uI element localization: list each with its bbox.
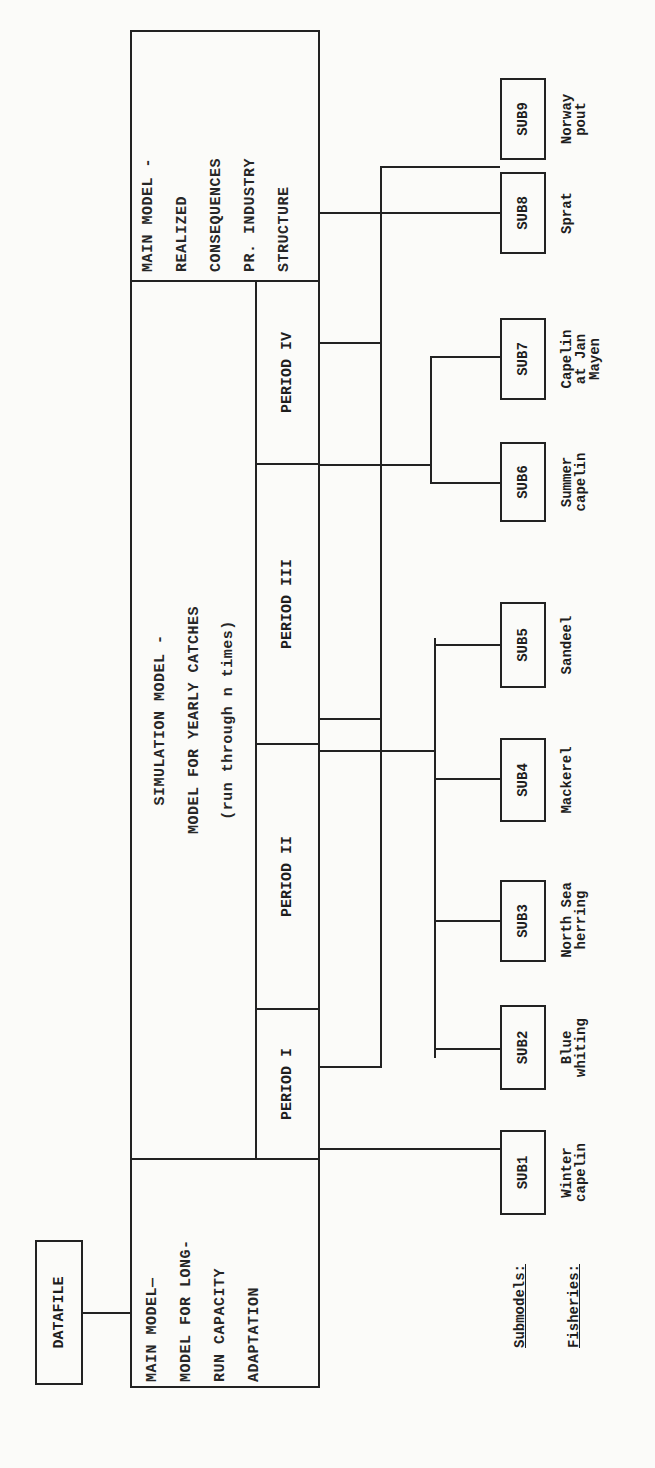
main-model-realized-line-4: PR. INDUSTRY — [238, 158, 263, 272]
fishery-sub6: Summer capelin — [560, 442, 588, 522]
submodel-sub6-label: SUB6 — [502, 444, 544, 520]
connector-sub4-drop — [434, 778, 500, 780]
period-3-label: PERIOD III — [257, 465, 318, 743]
period-4-box: PERIOD IV — [255, 280, 320, 465]
connector-group-b-bar — [430, 356, 432, 484]
submodel-sub2-label: SUB2 — [502, 1007, 544, 1088]
connector-sub3-drop — [434, 920, 500, 922]
main-model-realized-line-1: MAIN MODEL - — [136, 158, 161, 272]
connector-period1-stub — [320, 1066, 382, 1068]
submodels-legend: Submodels: — [512, 1264, 528, 1348]
period-1-label: PERIOD I — [257, 1010, 318, 1158]
submodel-sub9-label: SUB9 — [502, 80, 544, 158]
datafile-connector — [83, 1312, 131, 1314]
connector-period3-stub — [320, 464, 432, 466]
main-model-realized-box: MAIN MODEL - REALIZED CONSEQUENCES PR. I… — [130, 30, 320, 282]
main-model-longrun-line-2: MODEL FOR LONG- — [174, 1239, 199, 1382]
connector-period2-stub — [320, 750, 436, 752]
submodel-sub3-label: SUB3 — [502, 882, 544, 960]
connector-period1-drop — [320, 718, 382, 720]
submodel-sub7-label: SUB7 — [502, 320, 544, 398]
simulation-model-line-2: MODEL FOR YEARLY CATCHES — [182, 282, 207, 1158]
fishery-sub8: Sprat — [560, 172, 574, 254]
model-structure-diagram: DATAFILE MAIN MODEL— MODEL FOR LONG- RUN… — [0, 0, 655, 1468]
connector-group-a-bar — [434, 638, 436, 1058]
period-2-label: PERIOD II — [257, 745, 318, 1008]
connector-period1-sub1 — [320, 1148, 500, 1150]
simulation-model-line-1: SIMULATION MODEL - — [148, 282, 173, 1158]
datafile-box: DATAFILE — [35, 1240, 83, 1385]
connector-sub8-drop — [320, 212, 500, 214]
fishery-sub7: Capelin at Jan Mayen — [560, 318, 602, 400]
fishery-sub2: Blue whiting — [560, 1005, 588, 1090]
period-4-label: PERIOD IV — [257, 282, 318, 463]
fishery-sub1: Winter capelin — [560, 1130, 588, 1215]
main-model-realized-line-2: REALIZED — [170, 196, 195, 272]
period-3-box: PERIOD III — [255, 463, 320, 745]
fishery-sub9: Norway pout — [560, 78, 588, 160]
main-model-realized-line-5: STRUCTURE — [272, 186, 297, 272]
period-2-box: PERIOD II — [255, 743, 320, 1010]
fisheries-legend: Fisheries: — [566, 1264, 582, 1348]
submodel-sub1: SUB1 — [500, 1130, 546, 1215]
connector-sub5-drop — [434, 644, 500, 646]
simulation-model-line-3: (run through n times) — [216, 282, 241, 1158]
submodel-sub1-label: SUB1 — [502, 1132, 544, 1213]
main-model-longrun-line-3: RUN CAPACITY — [208, 1268, 233, 1382]
submodel-sub7: SUB7 — [500, 318, 546, 400]
fishery-sub4: Mackerel — [560, 732, 574, 828]
fishery-sub5: Sandeel — [560, 602, 574, 688]
datafile-label: DATAFILE — [37, 1242, 81, 1383]
submodel-sub4: SUB4 — [500, 738, 546, 822]
connector-sub6-drop — [430, 482, 500, 484]
submodel-sub3: SUB3 — [500, 880, 546, 962]
main-model-longrun-line-4: ADAPTATION — [242, 1287, 267, 1382]
submodel-sub5-label: SUB5 — [502, 604, 544, 686]
connector-sub9-vertical — [380, 166, 500, 168]
connector-sub9-bar — [380, 166, 382, 278]
submodel-sub8-label: SUB8 — [502, 174, 544, 252]
submodel-sub9: SUB9 — [500, 78, 546, 160]
submodel-sub5: SUB5 — [500, 602, 546, 688]
connector-sub7-drop — [430, 356, 500, 358]
fishery-sub3: North Sea herring — [560, 868, 588, 972]
main-model-longrun-box: MAIN MODEL— MODEL FOR LONG- RUN CAPACITY… — [130, 1158, 320, 1388]
main-model-longrun-line-1: MAIN MODEL— — [140, 1277, 165, 1382]
submodel-sub4-label: SUB4 — [502, 740, 544, 820]
period-1-box: PERIOD I — [255, 1008, 320, 1160]
submodel-sub6: SUB6 — [500, 442, 546, 522]
connector-period1-bar — [380, 718, 382, 1068]
submodel-sub2: SUB2 — [500, 1005, 546, 1090]
connector-sub2-drop — [434, 1048, 500, 1050]
submodel-sub8: SUB8 — [500, 172, 546, 254]
connector-period4-stub — [320, 342, 382, 344]
main-model-realized-line-3: CONSEQUENCES — [204, 158, 229, 272]
